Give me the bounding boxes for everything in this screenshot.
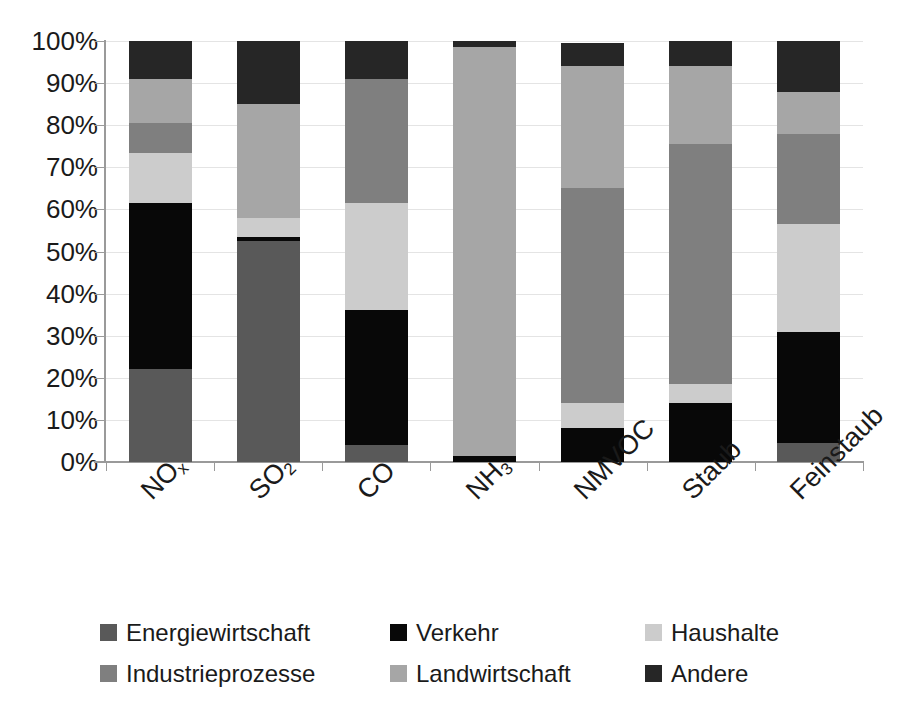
bar-nmvoc[interactable] [561,41,624,462]
bar-segment[interactable] [345,203,408,310]
x-axis-tick [863,462,864,471]
bar-segment[interactable] [669,144,732,384]
bar-segment[interactable] [237,237,300,241]
bar-segment[interactable] [777,224,840,331]
legend-item-haushalte[interactable]: Haushalte [645,619,840,647]
legend-swatch-icon [100,624,117,641]
legend-item-industrieprozesse[interactable]: Industrieprozesse [100,660,390,688]
cut-off-title-remnant [300,0,750,10]
y-axis-tick [95,167,105,168]
legend-swatch-icon [390,665,407,682]
x-axis-tick [322,462,323,471]
bar-segment[interactable] [129,123,192,152]
y-axis-tick-label: 90% [6,70,98,96]
bar-nox[interactable] [129,41,192,462]
bar-segment[interactable] [561,66,624,188]
bar-segment[interactable] [129,79,192,123]
legend-item-landwirtschaft[interactable]: Landwirtschaft [390,660,645,688]
bar-segment[interactable] [129,369,192,462]
bar-segment[interactable] [345,310,408,445]
legend-item-andere[interactable]: Andere [645,660,840,688]
y-axis-tick-label: 20% [6,365,98,391]
bar-segment[interactable] [777,92,840,134]
legend-item-label: Andere [671,660,748,688]
legend-item-verkehr[interactable]: Verkehr [390,619,645,647]
y-axis-tick-label: 40% [6,281,98,307]
bar-segment[interactable] [777,134,840,225]
legend-item-label: Haushalte [671,619,779,647]
bar-segment[interactable] [237,218,300,237]
bar-segment[interactable] [561,403,624,428]
bar-segment[interactable] [669,41,732,66]
y-axis-tick [95,378,105,379]
x-axis-tick [539,462,540,471]
y-axis-tick-label: 100% [6,28,98,54]
bar-segment[interactable] [345,41,408,79]
bar-segment[interactable] [345,79,408,203]
bar-segment[interactable] [453,47,516,455]
bar-segment[interactable] [129,153,192,204]
bar-feinstaub[interactable] [777,41,840,462]
y-axis-tick [95,252,105,253]
bar-co[interactable] [345,41,408,462]
y-axis-tick-label: 70% [6,154,98,180]
y-axis-tick-label: 0% [6,449,98,475]
bar-segment[interactable] [129,203,192,369]
y-axis-tick [95,294,105,295]
x-axis-tick [430,462,431,471]
plot-area [106,41,863,462]
stacked-bar-chart: 100%90%80%70%60%50%40%30%20%10%0% NOxSO2… [0,0,898,726]
legend-swatch-icon [645,624,662,641]
x-axis-tick [106,462,107,471]
y-axis-tick-label: 10% [6,407,98,433]
bar-staub[interactable] [669,41,732,462]
legend-item-energiewirtschaft[interactable]: Energiewirtschaft [100,619,390,647]
y-axis-tick [95,462,105,463]
bar-nh3[interactable] [453,41,516,462]
y-axis-tick [95,41,105,42]
legend-swatch-icon [645,665,662,682]
bar-segment[interactable] [453,41,516,47]
legend-item-label: Verkehr [416,619,499,647]
y-axis-labels: 100%90%80%70%60%50%40%30%20%10%0% [0,0,98,726]
bar-segment[interactable] [669,384,732,403]
bar-segment[interactable] [777,332,840,444]
y-axis-tick [95,336,105,337]
bar-segment[interactable] [237,41,300,104]
x-axis-tick [214,462,215,471]
y-axis-tick-label: 50% [6,239,98,265]
y-axis-tick-label: 30% [6,323,98,349]
bar-segment[interactable] [561,43,624,66]
legend-swatch-icon [100,665,117,682]
bar-segment[interactable] [669,66,732,144]
bar-segment[interactable] [237,241,300,462]
x-axis-tick [647,462,648,471]
y-axis-tick-label: 60% [6,196,98,222]
x-axis-tick [755,462,756,471]
bar-segment[interactable] [561,188,624,403]
bar-so2[interactable] [237,41,300,462]
chart-legend: EnergiewirtschaftVerkehrHaushalteIndustr… [100,612,840,694]
legend-item-label: Landwirtschaft [416,660,571,688]
bar-segment[interactable] [129,41,192,79]
legend-item-label: Energiewirtschaft [126,619,310,647]
y-axis-tick [95,83,105,84]
y-axis-tick [95,209,105,210]
legend-item-label: Industrieprozesse [126,660,315,688]
y-axis-tick [95,125,105,126]
bar-segment[interactable] [237,104,300,218]
bar-segment[interactable] [777,41,840,92]
legend-swatch-icon [390,624,407,641]
y-axis-tick [95,420,105,421]
y-axis-tick-label: 80% [6,112,98,138]
